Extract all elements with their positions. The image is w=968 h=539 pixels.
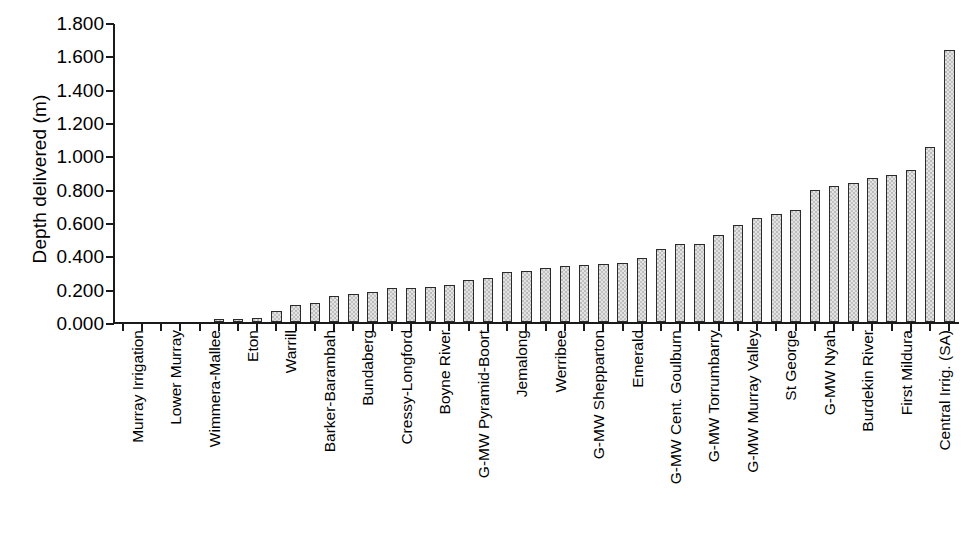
plot-area xyxy=(113,24,959,324)
bar xyxy=(925,147,936,322)
y-axis-tick-label: 1.800 xyxy=(56,13,104,35)
x-axis-tick-labels: Murray IrrigationLower MurrayWimmera-Mal… xyxy=(113,330,959,535)
y-axis-tick-labels: 1.8001.6001.4001.2001.0000.8000.6000.400… xyxy=(0,24,104,324)
bar xyxy=(694,244,705,322)
bar xyxy=(540,268,551,322)
bar xyxy=(675,244,686,322)
y-axis-tick-label: 0.800 xyxy=(56,180,104,202)
x-axis-tick-label: St George xyxy=(782,330,800,401)
bar xyxy=(848,183,859,322)
x-axis-tick-label: First Mildura xyxy=(898,330,916,415)
bar xyxy=(637,258,648,322)
x-axis-tick-label: Werribee xyxy=(552,330,570,393)
bar xyxy=(617,263,628,322)
x-axis-tick-label: Murray Irrigation xyxy=(129,330,147,443)
x-axis-tick-label: Central Irrig. (SA) xyxy=(936,330,954,451)
x-axis-tick-label: G-MW Pyramid-Boort xyxy=(475,330,493,478)
bar xyxy=(214,319,225,322)
bar xyxy=(733,225,744,322)
bar xyxy=(367,292,378,322)
bar xyxy=(463,280,474,322)
bar xyxy=(425,287,436,322)
bar xyxy=(502,272,513,322)
bar xyxy=(483,278,494,322)
bar xyxy=(271,311,282,322)
x-axis-tick-label: Wimmera-Mallee xyxy=(206,330,224,447)
x-axis-tick-label: G-MW Nyah xyxy=(821,330,839,415)
bar xyxy=(829,186,840,322)
y-axis-tick-label: 1.000 xyxy=(56,146,104,168)
x-axis-tick-label: G-MW Shepparton xyxy=(590,330,608,459)
y-axis-tick-label: 0.200 xyxy=(56,280,104,302)
bar xyxy=(406,288,417,322)
bar xyxy=(252,318,263,322)
bar xyxy=(387,288,398,322)
x-axis-tick-label: Burdekin River xyxy=(859,330,877,432)
bar-series xyxy=(113,24,959,322)
y-axis-tick-label: 1.600 xyxy=(56,46,104,68)
bar xyxy=(310,303,321,322)
bar xyxy=(752,218,763,322)
bar xyxy=(521,271,532,322)
x-axis-tick-label: Barker-Barambah xyxy=(321,330,339,452)
bar xyxy=(598,264,609,322)
x-axis-tick-label: Bundaberg xyxy=(359,330,377,406)
bar xyxy=(944,50,955,322)
bar xyxy=(444,285,455,323)
bar xyxy=(348,294,359,322)
y-axis-tick xyxy=(106,323,114,325)
bar xyxy=(656,249,667,322)
x-axis-tick-label: Emerald xyxy=(629,330,647,388)
y-axis-tick-label: 0.000 xyxy=(56,313,104,335)
bar xyxy=(886,175,897,322)
bar-chart: Depth delivered (m) 1.8001.6001.4001.200… xyxy=(0,0,968,539)
bar xyxy=(810,190,821,323)
bar xyxy=(713,235,724,322)
x-axis-tick-label: Boyne River xyxy=(436,330,454,414)
bar xyxy=(790,210,801,323)
x-axis-tick-label: Lower Murray xyxy=(167,330,185,425)
y-axis-tick-label: 1.400 xyxy=(56,80,104,102)
bar xyxy=(867,178,878,322)
bar xyxy=(290,305,301,322)
x-axis-tick-label: Warrill xyxy=(282,330,300,373)
bar xyxy=(560,266,571,322)
x-axis-tick-label: Cressy-Longford xyxy=(398,330,416,445)
bar xyxy=(771,214,782,322)
x-axis-tick-label: G-MW Cent. Goulburn xyxy=(667,330,685,484)
bar xyxy=(906,170,917,323)
x-axis-tick-label: Eton xyxy=(244,330,262,362)
y-axis-tick-label: 0.600 xyxy=(56,213,104,235)
y-axis-tick-label: 1.200 xyxy=(56,113,104,135)
x-axis-tick-label: Jemalong xyxy=(513,330,531,397)
x-axis-tick-label: G-MW Torrumbarry xyxy=(705,330,723,462)
bar xyxy=(579,265,590,322)
bar xyxy=(233,319,244,322)
y-axis-tick-label: 0.400 xyxy=(56,246,104,268)
x-axis-tick-label: G-MW Murray Valley xyxy=(744,330,762,473)
bar xyxy=(329,296,340,322)
